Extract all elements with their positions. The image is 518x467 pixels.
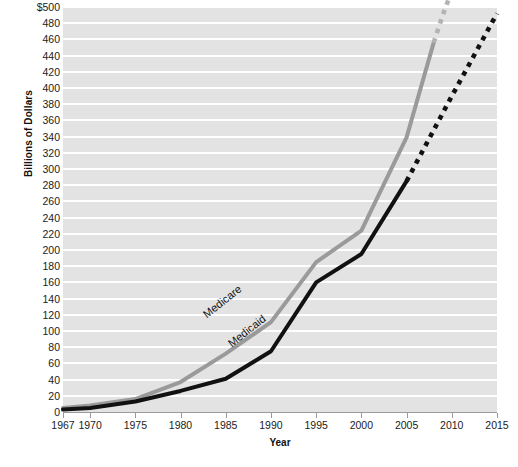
y-axis-tick-label: 200 xyxy=(16,245,60,255)
x-axis-tick-label: 2015 xyxy=(467,419,518,431)
plot-area xyxy=(63,7,497,412)
y-axis-tick-labels: $500480460440420400380360340320300280260… xyxy=(16,0,60,418)
y-axis-tick-label: 100 xyxy=(16,326,60,336)
y-axis-tick-label: 480 xyxy=(16,18,60,28)
chart-figure: Billions of Dollars $5004804604404204003… xyxy=(0,0,518,467)
x-axis-tick xyxy=(407,413,408,418)
x-axis-tick xyxy=(316,413,317,418)
y-axis-tick-label: 20 xyxy=(16,391,60,401)
y-axis-tick-label: 420 xyxy=(16,67,60,77)
y-axis-tick-label: 380 xyxy=(16,99,60,109)
x-axis-tick xyxy=(135,413,136,418)
series-line-medicare-projected xyxy=(434,0,452,43)
y-axis-tick-label: 360 xyxy=(16,115,60,125)
x-axis-tick xyxy=(90,413,91,418)
y-axis-tick-label: 40 xyxy=(16,375,60,385)
x-axis-tick xyxy=(63,413,64,418)
y-axis-tick-label: 220 xyxy=(16,229,60,239)
y-axis-tick-label: 0 xyxy=(16,407,60,417)
y-axis-tick-label: 60 xyxy=(16,358,60,368)
x-axis-tick xyxy=(361,413,362,418)
x-axis-tick xyxy=(271,413,272,418)
series-lines xyxy=(63,7,497,412)
x-axis-tick xyxy=(497,413,498,418)
y-axis-tick-label: 280 xyxy=(16,180,60,190)
x-axis-tick-labels: 1967197019751980198519901995200020052010… xyxy=(63,419,497,435)
x-axis-tick xyxy=(452,413,453,418)
y-axis-tick-label: 340 xyxy=(16,132,60,142)
x-axis-title: Year xyxy=(63,437,497,448)
y-axis-tick-label: 160 xyxy=(16,277,60,287)
x-axis-tick xyxy=(226,413,227,418)
x-axis-ticks xyxy=(63,413,497,418)
series-line-medicaid-projected xyxy=(407,13,497,181)
y-axis-tick-label: 180 xyxy=(16,261,60,271)
y-axis-tick-label: 140 xyxy=(16,294,60,304)
y-axis-tick-label: 240 xyxy=(16,213,60,223)
y-axis-tick-label: 460 xyxy=(16,34,60,44)
y-axis-tick-label: 260 xyxy=(16,196,60,206)
y-axis-tick-label: 120 xyxy=(16,310,60,320)
y-axis-tick-label: 300 xyxy=(16,164,60,174)
figure-caption xyxy=(60,459,512,467)
x-axis-tick xyxy=(181,413,182,418)
y-axis-tick-label: $500 xyxy=(16,2,60,12)
y-axis-tick-label: 320 xyxy=(16,148,60,158)
y-axis-tick-label: 440 xyxy=(16,51,60,61)
y-axis-tick-label: 80 xyxy=(16,342,60,352)
y-axis-tick-label: 400 xyxy=(16,83,60,93)
